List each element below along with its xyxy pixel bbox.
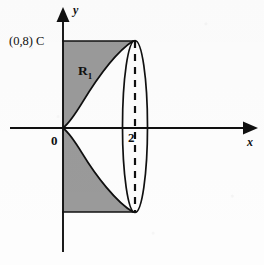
- region-label: R1: [78, 64, 92, 81]
- y-axis-label: y: [73, 4, 78, 16]
- origin-label: 0: [51, 134, 58, 147]
- x-axis-arrowhead: [243, 122, 258, 135]
- figure-canvas: (0,8) C R1 0 2 x y: [0, 0, 264, 265]
- point-c-label: (0,8) C: [9, 35, 44, 48]
- region-label-subscript: 1: [88, 71, 93, 81]
- y-axis-arrowhead: [57, 7, 70, 22]
- x-tick-2-label: 2: [128, 131, 135, 144]
- region-label-text: R: [78, 63, 88, 78]
- x-axis-label: x: [247, 136, 253, 148]
